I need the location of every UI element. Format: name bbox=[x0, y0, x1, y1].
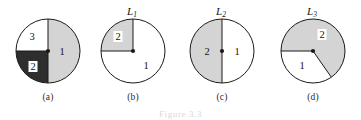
center-dot-a bbox=[46, 49, 50, 53]
panel-caption-c: (c) bbox=[202, 92, 242, 102]
figure-container: 13221L121L221L3 (a) (b) (c) (d) Figure 3… bbox=[0, 0, 361, 119]
line-label-sub-c: 2 bbox=[222, 10, 226, 19]
panel-caption-a: (a) bbox=[28, 92, 68, 102]
circle-panel-b: 21L1 bbox=[101, 5, 165, 84]
line-label-c: L2 bbox=[215, 5, 226, 20]
region-label-d-2: 2 bbox=[319, 29, 324, 40]
line-label-sub-d: 3 bbox=[312, 10, 317, 19]
region-label-c-2: 2 bbox=[204, 46, 209, 57]
center-dot-c bbox=[220, 49, 224, 53]
region-label-b-2: 2 bbox=[115, 31, 120, 42]
circle-panel-c: 21L2 bbox=[190, 5, 254, 84]
circle-panel-d: 21L3 bbox=[281, 5, 345, 84]
region-label-a-3: 3 bbox=[29, 31, 34, 42]
panel-caption-b: (b) bbox=[113, 92, 153, 102]
line-label-d: L3 bbox=[306, 5, 317, 20]
region-label-a-2: 2 bbox=[30, 61, 35, 72]
line-label-sub-b: 1 bbox=[133, 10, 137, 19]
figure-caption: Figure 3.3 bbox=[0, 109, 361, 120]
line-label-b: L1 bbox=[126, 5, 137, 20]
region-label-c-1: 1 bbox=[234, 46, 239, 57]
center-dot-b bbox=[131, 49, 135, 53]
region-label-a-1: 1 bbox=[59, 46, 64, 57]
region-label-b-1: 1 bbox=[143, 60, 148, 71]
center-dot-d bbox=[311, 49, 315, 53]
region-label-d-1: 1 bbox=[299, 60, 304, 71]
panel-caption-d: (d) bbox=[293, 92, 333, 102]
circle-panel-a: 132 bbox=[16, 19, 80, 83]
